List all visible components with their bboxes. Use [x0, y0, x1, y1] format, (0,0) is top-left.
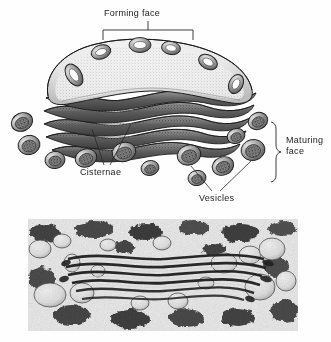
golgi-apparatus-figure: Forming face Cisternae Vesicles Maturing…	[0, 0, 331, 342]
golgi-electron-micrograph	[28, 219, 298, 331]
label-vesicles: Vesicles	[199, 193, 234, 204]
label-cisternae: Cisternae	[80, 167, 121, 178]
vesicle	[239, 137, 267, 163]
vesicle	[16, 133, 42, 157]
label-maturing-face: Maturing face	[286, 135, 323, 157]
vesicle	[8, 109, 35, 134]
golgi-diagram	[0, 0, 331, 215]
label-forming-face: Forming face	[104, 8, 160, 19]
micrograph-image	[28, 219, 298, 331]
maturing-face-brace	[271, 122, 281, 182]
vesicle	[187, 169, 207, 187]
vesicle	[139, 159, 160, 178]
forming-face-bracket	[103, 21, 193, 40]
vesicle	[245, 109, 270, 132]
